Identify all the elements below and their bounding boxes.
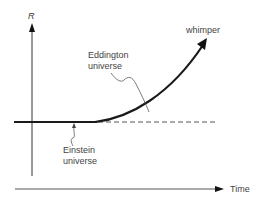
einstein-pointer-arrow-icon — [72, 123, 76, 128]
whimper-label: whimper — [186, 25, 220, 35]
einstein-label-line2: universe — [63, 156, 97, 166]
eddington-label-line2: universe — [88, 61, 122, 71]
x-axis-label: Time — [230, 184, 250, 194]
r-axis-arrow-icon — [29, 23, 35, 32]
time-axis-arrow-icon — [215, 186, 224, 192]
y-axis-label: R — [28, 11, 35, 21]
einstein-label-line1: Einstein — [63, 145, 95, 155]
diagram-canvas — [0, 0, 261, 201]
eddington-label-line1: Eddington — [88, 50, 129, 60]
